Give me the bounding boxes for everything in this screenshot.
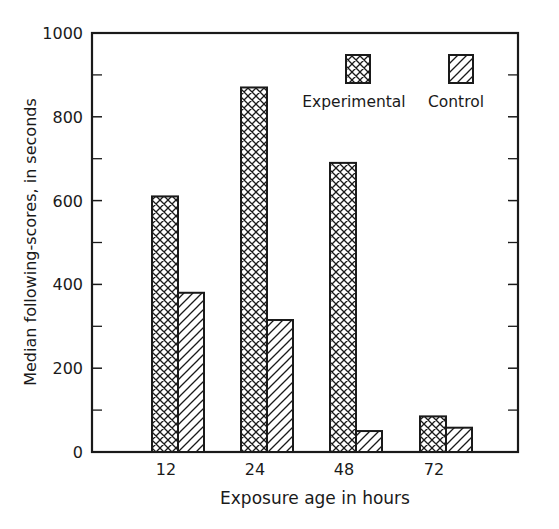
y-tick-label: 0 xyxy=(73,443,83,462)
x-axis-label: Exposure age in hours xyxy=(220,488,410,508)
legend-swatch-control xyxy=(449,55,473,83)
x-tick-label: 24 xyxy=(245,460,265,479)
bar-control-48 xyxy=(356,431,382,452)
bar-experimental-24 xyxy=(241,87,267,452)
legend-label-experimental: Experimental xyxy=(302,93,405,111)
x-tick-label: 48 xyxy=(334,460,354,479)
x-tick-label: 72 xyxy=(424,460,444,479)
y-tick-label: 400 xyxy=(52,275,83,294)
y-tick-label: 1000 xyxy=(42,24,83,43)
x-axis-ticks: 12244872 xyxy=(156,460,444,479)
bar-control-24 xyxy=(267,320,293,452)
y-axis-label: Median following-scores, in seconds xyxy=(21,98,40,386)
bar-experimental-12 xyxy=(152,196,178,452)
y-tick-label: 200 xyxy=(52,359,83,378)
legend: ExperimentalControl xyxy=(302,55,484,111)
y-tick-label: 600 xyxy=(52,192,83,211)
bar-experimental-48 xyxy=(330,163,356,452)
bar-control-12 xyxy=(178,293,204,452)
bar-control-72 xyxy=(446,428,472,452)
bar-experimental-72 xyxy=(420,416,446,452)
bars xyxy=(152,87,472,452)
x-tick-label: 12 xyxy=(156,460,176,479)
legend-swatch-experimental xyxy=(346,55,370,83)
legend-label-control: Control xyxy=(428,93,484,111)
bar-chart: 02004006008001000 12244872 ExperimentalC… xyxy=(0,0,559,529)
y-tick-label: 800 xyxy=(52,108,83,127)
